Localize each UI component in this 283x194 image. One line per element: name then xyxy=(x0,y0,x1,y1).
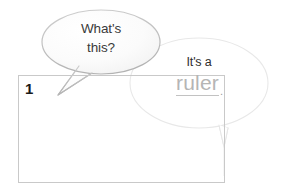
answer-period-mark: . xyxy=(220,85,223,97)
illustration-canvas: 1 What's this? It's a ruler. xyxy=(0,0,283,194)
answer-bubble-text: It's a ruler. xyxy=(140,56,258,96)
question-line-1: What's xyxy=(48,19,154,38)
answer-term-text: ruler xyxy=(176,71,219,97)
answer-lead-text: It's a xyxy=(140,56,258,70)
ruler-index-label: 1 xyxy=(25,81,33,96)
question-line-2: this? xyxy=(48,38,154,57)
question-bubble-text: What's this? xyxy=(48,19,154,57)
